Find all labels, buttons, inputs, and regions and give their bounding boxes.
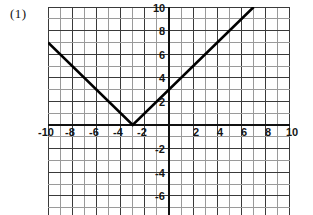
x-tick-label--10: -10	[38, 126, 54, 138]
x-tick-label-10: 10	[286, 126, 298, 138]
y-tick-label-4: 4	[159, 72, 165, 84]
y-tick-label-2: 2	[159, 96, 165, 108]
y-tick-label--6: -6	[155, 190, 165, 202]
x-tick-label--2: -2	[137, 126, 147, 138]
x-tick-label-2: 2	[193, 126, 199, 138]
graph-svg	[48, 7, 290, 215]
graph-page: (1)	[0, 0, 313, 215]
y-tick-label-8: 8	[159, 25, 165, 37]
x-tick-label-4: 4	[217, 126, 223, 138]
y-tick-label--4: -4	[155, 167, 165, 179]
x-tick-label--4: -4	[113, 126, 123, 138]
y-tick-label-6: 6	[159, 49, 165, 61]
coordinate-grid-graph	[48, 7, 290, 215]
y-tick-label--2: -2	[155, 143, 165, 155]
x-tick-label-6: 6	[241, 126, 247, 138]
problem-number-label: (1)	[10, 6, 27, 22]
x-tick-label--6: -6	[89, 126, 99, 138]
y-tick-label-10: 10	[153, 2, 165, 14]
x-tick-label-8: 8	[265, 126, 271, 138]
x-tick-label--8: -8	[65, 126, 75, 138]
